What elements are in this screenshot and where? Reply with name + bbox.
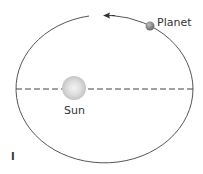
planet-label: Planet: [157, 16, 192, 29]
orbit-diagram: Planet Sun I: [0, 0, 203, 174]
sun-label: Sun: [64, 104, 85, 117]
sun-icon: [62, 76, 86, 100]
planet-icon: [146, 22, 155, 31]
direction-arrow-icon: [103, 13, 110, 19]
panel-label: I: [11, 151, 15, 162]
orbit-ellipse: [16, 16, 193, 163]
